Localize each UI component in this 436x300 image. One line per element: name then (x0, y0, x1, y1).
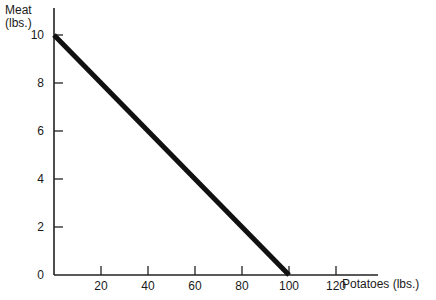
x-tick-label: 80 (227, 279, 257, 293)
x-axis-label: Potatoes (lbs.) (342, 278, 419, 291)
x-tick-label: 120 (321, 279, 351, 293)
y-tick-label: 4 (24, 172, 44, 186)
production-possibilities-line (54, 35, 289, 275)
production-possibilities-chart: Meat (lbs.) Potatoes (lbs.) 0246810 2040… (0, 0, 436, 300)
x-tick-label: 60 (180, 279, 210, 293)
x-tick-label: 40 (133, 279, 163, 293)
y-tick-label: 2 (24, 220, 44, 234)
y-axis-label: Meat (lbs.) (5, 4, 32, 30)
x-tick-label: 100 (274, 279, 304, 293)
y-tick-label: 6 (24, 124, 44, 138)
y-tick-label: 0 (24, 268, 44, 282)
plot-area (0, 0, 436, 300)
data-lines (54, 35, 289, 275)
x-tick-label: 20 (86, 279, 116, 293)
axes (54, 8, 378, 275)
y-tick-label: 10 (24, 28, 44, 42)
y-tick-label: 8 (24, 76, 44, 90)
